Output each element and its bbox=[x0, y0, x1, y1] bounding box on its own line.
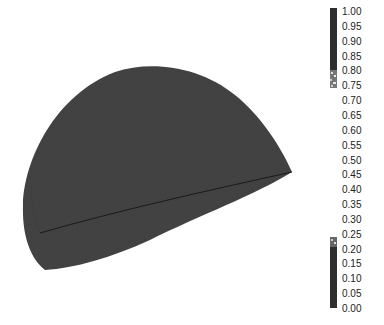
surface-patch bbox=[23, 66, 292, 270]
colorbar-tick-label: 0.20 bbox=[342, 245, 361, 255]
colorbar-tick-label: 1.00 bbox=[342, 7, 361, 17]
colorbar bbox=[330, 8, 337, 308]
surface-plot bbox=[0, 0, 384, 325]
colorbar-tick-label: 0.65 bbox=[342, 111, 361, 121]
colorbar-upper-segment bbox=[330, 8, 337, 70]
colorbar-lower-segment bbox=[330, 237, 337, 308]
colorbar-tick-label: 0.35 bbox=[342, 200, 361, 210]
colorbar-tick-label: 0.15 bbox=[342, 259, 361, 269]
colorbar-tick-label: 0.45 bbox=[342, 170, 361, 180]
colorbar-tick-label: 0.90 bbox=[342, 37, 361, 47]
colorbar-tick-label: 0.30 bbox=[342, 215, 361, 225]
colorbar-tick-label: 0.70 bbox=[342, 96, 361, 106]
colorbar-tick-label: 0.80 bbox=[342, 66, 361, 76]
colorbar-tick-label: 0.50 bbox=[342, 156, 361, 166]
colorbar-tick-label: 0.85 bbox=[342, 52, 361, 62]
colorbar-tick-label: 0.40 bbox=[342, 185, 361, 195]
colorbar-tick-label: 0.95 bbox=[342, 22, 361, 32]
colorbar-tick-label: 0.55 bbox=[342, 141, 361, 151]
colorbar-tick-label: 0.05 bbox=[342, 289, 361, 299]
colorbar-tick-label: 0.10 bbox=[342, 274, 361, 284]
colorbar-tick-label: 0.75 bbox=[342, 81, 361, 91]
colorbar-tick-label: 0.00 bbox=[342, 304, 361, 314]
colorbar-tick-label: 0.25 bbox=[342, 230, 361, 240]
colorbar-tick-label: 0.60 bbox=[342, 126, 361, 136]
